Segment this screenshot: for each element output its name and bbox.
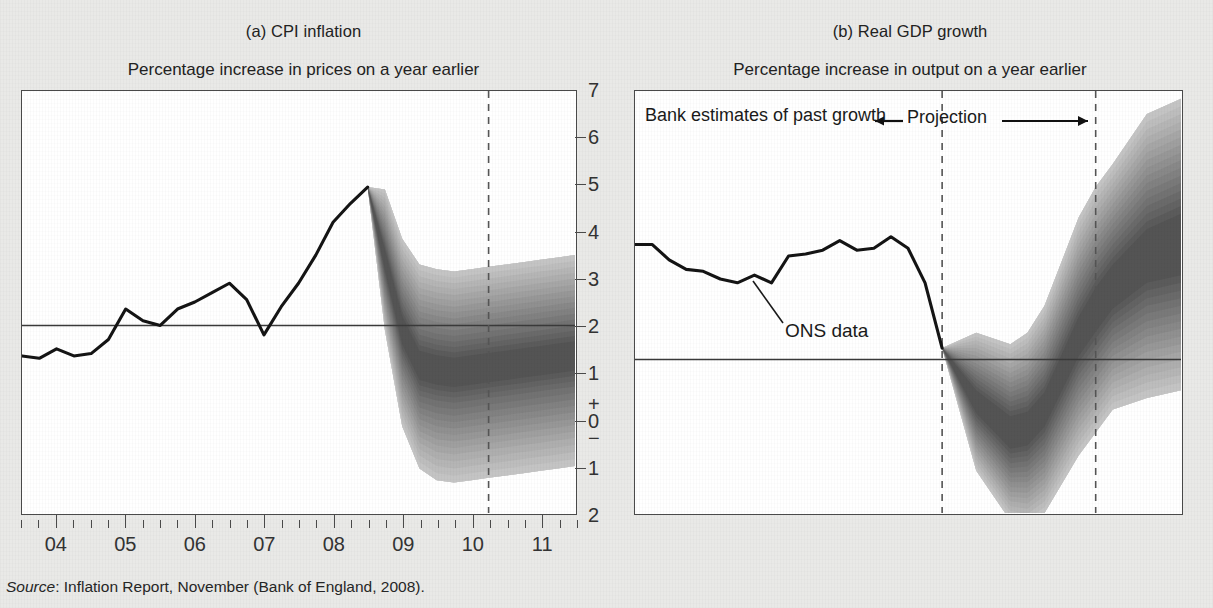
x-tick-label: 10 <box>462 534 484 554</box>
cpi-fan-bands <box>368 187 575 482</box>
x-tick-minor <box>421 520 422 528</box>
x-tick-minor <box>282 520 283 528</box>
x-tick-major <box>264 515 265 528</box>
y-tick <box>575 184 586 185</box>
y-tick-label: 2 <box>588 505 599 525</box>
cpi-plot-area <box>21 90 577 515</box>
cpi-chart-svg <box>22 91 575 513</box>
source-note: Source: Inflation Report, November (Bank… <box>6 578 425 596</box>
gdp-fan-bands <box>942 99 1181 513</box>
x-tick-minor <box>212 520 213 528</box>
x-tick-label: 05 <box>114 534 136 554</box>
x-tick-minor <box>230 520 231 528</box>
panel-a-subtitle: Percentage increase in prices on a year … <box>0 60 607 80</box>
x-tick-label: 09 <box>392 534 414 554</box>
x-tick-major <box>334 515 335 528</box>
x-tick-minor <box>438 520 439 528</box>
y-tick-label: 7 <box>588 80 599 100</box>
x-tick-major <box>125 515 126 528</box>
y-tick-label: 2 <box>588 316 599 336</box>
cpi-x-axis-labels: 0405060708091011 <box>21 528 577 554</box>
panel-b-subtitle: Percentage increase in output on a year … <box>607 60 1213 80</box>
x-tick-minor <box>38 520 39 528</box>
gdp-chart-svg <box>635 91 1181 513</box>
x-tick-minor <box>455 520 456 528</box>
y-sign-label: + <box>588 394 600 414</box>
x-tick-minor <box>369 520 370 528</box>
y-tick <box>575 421 586 422</box>
y-tick-label: 3 <box>588 269 599 289</box>
x-tick-minor <box>351 520 352 528</box>
x-tick-minor <box>21 520 22 528</box>
x-tick-major <box>195 515 196 528</box>
x-tick-minor <box>386 520 387 528</box>
y-tick <box>575 326 586 327</box>
x-tick-label: 11 <box>532 534 553 554</box>
source-label: Source <box>6 578 55 595</box>
y-tick <box>575 137 586 138</box>
x-tick-minor <box>108 520 109 528</box>
ons-data-label: ONS data <box>785 320 868 342</box>
x-tick-minor <box>577 520 578 528</box>
x-tick-label: 06 <box>184 534 206 554</box>
x-tick-minor <box>91 520 92 528</box>
x-tick-label: 04 <box>45 534 67 554</box>
x-tick-minor <box>508 520 509 528</box>
x-tick-major <box>473 515 474 528</box>
y-sign-label: − <box>588 428 600 448</box>
y-tick <box>575 373 586 374</box>
cpi-data-line <box>22 187 368 358</box>
y-tick <box>575 232 586 233</box>
bank-estimates-label: Bank estimates of past growth <box>645 105 886 126</box>
x-tick-minor <box>490 520 491 528</box>
x-tick-minor <box>160 520 161 528</box>
source-text: : Inflation Report, November (Bank of En… <box>55 578 425 595</box>
panel-a-title: (a) CPI inflation <box>0 22 607 41</box>
x-tick-minor <box>560 520 561 528</box>
x-tick-minor <box>73 520 74 528</box>
y-tick-label: 1 <box>588 458 599 478</box>
x-tick-minor <box>247 520 248 528</box>
gdp-plot-area: Bank estimates of past growth Projection… <box>634 90 1183 515</box>
x-tick-major <box>542 515 543 528</box>
ons-leader-line <box>753 281 783 323</box>
x-tick-major <box>56 515 57 528</box>
x-tick-minor <box>299 520 300 528</box>
y-tick <box>575 279 586 280</box>
y-tick-label: 5 <box>588 174 599 194</box>
x-tick-label: 07 <box>253 534 275 554</box>
panel-real-gdp-growth: projections (b) Real GDP growth Percenta… <box>607 0 1213 608</box>
x-tick-major <box>403 515 404 528</box>
y-tick-label: 6 <box>588 127 599 147</box>
panel-cpi-inflation: (a) CPI inflation Percentage increase in… <box>0 0 607 608</box>
projection-label: Projection <box>907 107 987 128</box>
x-tick-label: 08 <box>323 534 345 554</box>
x-tick-minor <box>143 520 144 528</box>
y-tick-label: 4 <box>588 222 599 242</box>
y-tick <box>575 468 586 469</box>
x-tick-minor <box>177 520 178 528</box>
x-tick-minor <box>525 520 526 528</box>
x-tick-minor <box>316 520 317 528</box>
y-tick-label: 1 <box>588 363 599 383</box>
panel-b-title: (b) Real GDP growth <box>607 22 1213 41</box>
